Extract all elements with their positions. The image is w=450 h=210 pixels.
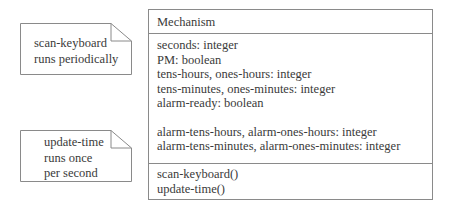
uml-diagram: scan-keyboard runs periodically update-t… bbox=[0, 0, 450, 210]
note-update-time: update-time runs once per second bbox=[44, 135, 104, 182]
class-methods: scan-keyboard() update-time() bbox=[157, 167, 238, 196]
class-attributes: seconds: integer PM: boolean tens-hours,… bbox=[157, 38, 400, 154]
attribute: seconds: integer bbox=[157, 38, 400, 53]
note-line: runs once bbox=[44, 151, 104, 167]
attribute: tens-hours, ones-hours: integer bbox=[157, 67, 400, 82]
method: scan-keyboard() bbox=[157, 167, 238, 182]
note-line: update-time bbox=[44, 135, 104, 151]
attribute: alarm-ready: boolean bbox=[157, 96, 400, 111]
attribute: alarm-tens-hours, alarm-ones-hours: inte… bbox=[157, 125, 400, 140]
method: update-time() bbox=[157, 182, 238, 197]
attribute: tens-minutes, ones-minutes: integer bbox=[157, 82, 400, 97]
note-line: scan-keyboard bbox=[34, 36, 118, 52]
class-header-divider bbox=[149, 33, 432, 34]
class-methods-divider bbox=[149, 163, 432, 164]
note-line: runs periodically bbox=[34, 52, 118, 68]
class-box-mechanism: Mechanism seconds: integer PM: boolean t… bbox=[148, 9, 433, 200]
attribute: PM: boolean bbox=[157, 53, 400, 68]
note-scan-keyboard: scan-keyboard runs periodically bbox=[34, 36, 118, 67]
note-line: per second bbox=[44, 166, 104, 182]
attribute: alarm-tens-minutes, alarm-ones-minutes: … bbox=[157, 139, 400, 154]
class-name: Mechanism bbox=[157, 15, 215, 30]
attribute-spacer bbox=[157, 111, 400, 125]
